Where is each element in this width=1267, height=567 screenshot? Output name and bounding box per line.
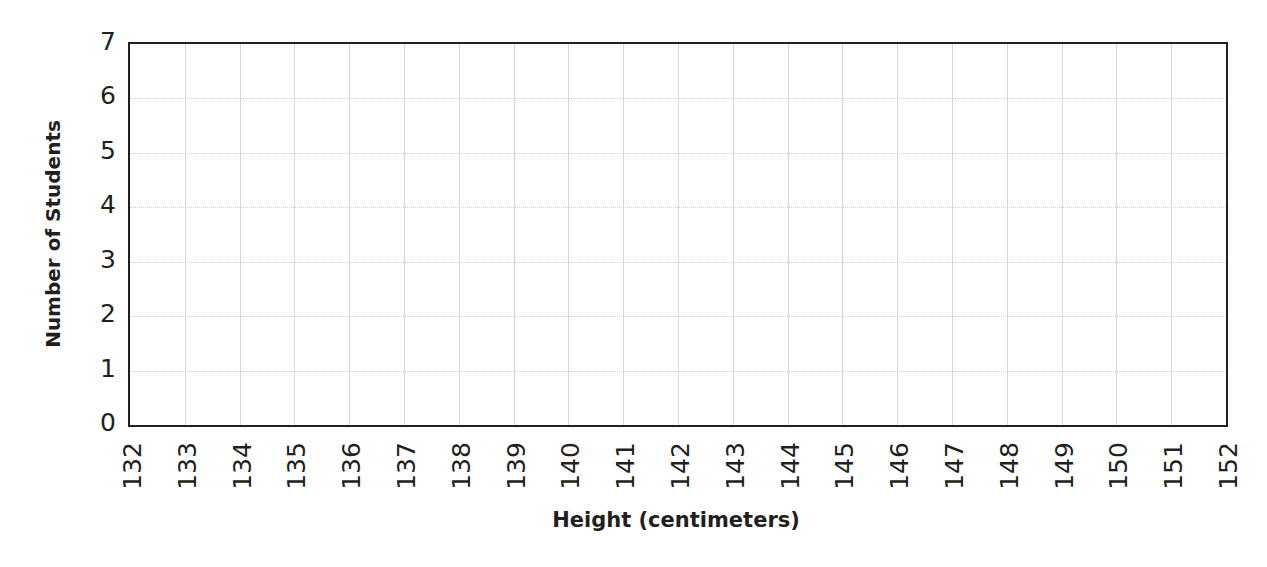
x-axis-title: Height (centimeters) [128, 508, 1224, 532]
x-axis-tick-label-text: 135 [284, 442, 310, 490]
x-axis-tick-label-text: 139 [504, 442, 530, 490]
x-axis-tick-label: 136 [340, 423, 364, 509]
x-axis-tick-label-text: 141 [613, 442, 639, 490]
x-axis-tick-label-text: 140 [558, 442, 584, 490]
x-axis-tick-label-text: 151 [1161, 442, 1187, 490]
x-axis-tick-label: 133 [176, 423, 200, 509]
x-axis-tick-label: 135 [285, 423, 309, 509]
x-axis-tick-label: 141 [614, 423, 638, 509]
x-axis-tick-label: 148 [998, 423, 1022, 509]
x-axis-tick-label-text: 143 [723, 442, 749, 490]
x-axis-tick-label: 134 [231, 423, 255, 509]
x-axis-tick-label-text: 152 [1216, 442, 1242, 490]
x-axis-tick-label-text: 136 [339, 442, 365, 490]
x-axis-tick-label-text: 132 [120, 442, 146, 490]
x-axis-tick-label: 151 [1162, 423, 1186, 509]
x-axis-tick-label-text: 150 [1106, 442, 1132, 490]
plot-area [128, 42, 1228, 427]
x-axis-tick-label: 139 [505, 423, 529, 509]
y-axis-tick-labels: 76543210 [72, 0, 116, 567]
x-axis-tick-label: 146 [888, 423, 912, 509]
x-axis-tick-label: 149 [1053, 423, 1077, 509]
x-axis-tick-label-text: 138 [449, 442, 475, 490]
y-axis-tick-label: 5 [76, 138, 116, 163]
x-axis-tick-label: 147 [943, 423, 967, 509]
x-axis-tick-label-text: 134 [230, 442, 256, 490]
x-axis-tick-label: 140 [559, 423, 583, 509]
x-axis-tick-label-text: 133 [175, 442, 201, 490]
x-axis-tick-label: 144 [779, 423, 803, 509]
x-axis-tick-label: 145 [833, 423, 857, 509]
x-axis-tick-label-text: 147 [942, 442, 968, 490]
x-axis-tick-label-text: 148 [997, 442, 1023, 490]
x-axis-tick-label: 137 [395, 423, 419, 509]
y-axis-tick-label: 0 [76, 410, 116, 435]
chart-figure: Number of Students 76543210 132133134135… [0, 0, 1267, 567]
x-axis-tick-label: 150 [1107, 423, 1131, 509]
x-axis-tick-label-text: 137 [394, 442, 420, 490]
x-axis-tick-label: 143 [724, 423, 748, 509]
y-axis-tick-label: 7 [76, 29, 116, 54]
y-axis-tick-label: 3 [76, 247, 116, 272]
x-axis-tick-label: 138 [450, 423, 474, 509]
x-axis-tick-label-text: 149 [1052, 442, 1078, 490]
x-axis-tick-labels: 1321331341351361371381391401411421431441… [128, 423, 1224, 513]
y-axis-tick-label: 4 [76, 192, 116, 217]
bar-series-layer [130, 44, 1226, 425]
y-axis-title: Number of Students [41, 119, 65, 349]
y-axis-tick-label: 1 [76, 356, 116, 381]
x-axis-tick-label: 152 [1217, 423, 1241, 509]
x-axis-tick-label: 142 [669, 423, 693, 509]
x-axis-tick-label-text: 144 [778, 442, 804, 490]
y-axis-tick-label: 6 [76, 83, 116, 108]
x-axis-tick-label-text: 146 [887, 442, 913, 490]
x-axis-tick-label: 132 [121, 423, 145, 509]
x-axis-tick-label-text: 142 [668, 442, 694, 490]
x-axis-tick-label-text: 145 [832, 442, 858, 490]
y-axis-tick-label: 2 [76, 301, 116, 326]
